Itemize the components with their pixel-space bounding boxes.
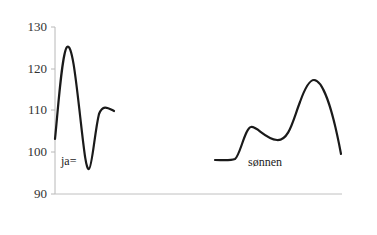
contour-line-sonnen — [215, 80, 341, 160]
y-tick-label-100: 100 — [28, 144, 48, 159]
y-ticks — [51, 27, 55, 194]
y-tick-label-120: 120 — [28, 61, 48, 76]
contour-line-ja — [55, 47, 114, 169]
annotation-sonnen: sønnen — [248, 155, 282, 169]
pitch-contour-chart: 130 120 110 100 90 ja= sønnen — [0, 0, 377, 235]
y-tick-label-90: 90 — [34, 186, 47, 201]
y-tick-label-110: 110 — [28, 102, 47, 117]
y-tick-label-130: 130 — [28, 19, 48, 34]
annotation-ja: ja= — [60, 154, 77, 168]
